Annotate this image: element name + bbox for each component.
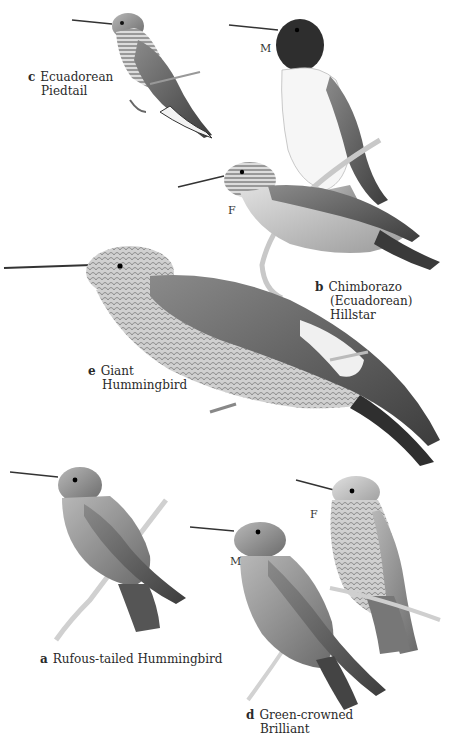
illustration-plate: cEcuadorean Piedtail M F bChimborazo (Ec… [0,0,456,737]
sex-label-female-brilliant: F [310,508,318,521]
species-letter: a [40,652,48,666]
bird-giant-hummingbird [4,246,440,466]
species-label-d: dGreen-crowned Brilliant [246,708,353,736]
species-name-line: Hummingbird [88,378,187,392]
species-letter: b [315,280,323,294]
species-name-line: Ecuadorean [40,70,113,84]
species-label-e: eGiant Hummingbird [88,364,187,392]
hummingbird-illustrations [0,0,456,737]
species-name-line: (Ecuadorean) [315,294,412,308]
species-name-line: Giant [101,364,134,378]
species-name-line: Brilliant [246,722,353,736]
species-name-line: Green-crowned [259,708,353,722]
species-letter: e [88,364,96,378]
sex-label-male-brilliant: M [230,555,241,568]
sex-label-male-hillstar: M [260,42,271,55]
species-label-a: aRufous-tailed Hummingbird [40,652,223,666]
species-letter: c [28,70,35,84]
sex-label-female-hillstar: F [228,204,236,217]
species-name-line: Hillstar [315,308,412,322]
species-label-c: cEcuadorean Piedtail [28,70,113,98]
species-letter: d [246,708,254,722]
bird-rufous-tailed-hummingbird [10,467,186,640]
species-name-line: Chimborazo [328,280,401,294]
species-label-b: bChimborazo (Ecuadorean) Hillstar [315,280,412,322]
species-name-line: Piedtail [28,84,113,98]
species-name-line: Rufous-tailed Hummingbird [53,652,223,666]
